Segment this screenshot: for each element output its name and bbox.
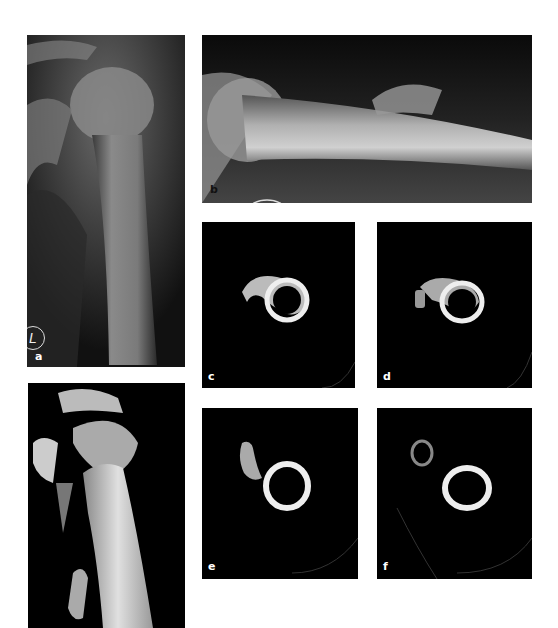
panel-a-radiograph: L a — [27, 35, 185, 367]
ct-slice-image — [377, 408, 532, 579]
ct-3d-image — [28, 383, 185, 628]
panel-label-b: b — [210, 183, 218, 196]
panel-b-radiograph: b — [202, 35, 532, 203]
panel-d-ct: d — [377, 222, 532, 388]
panel-label-e: e — [208, 560, 215, 573]
panel-3d-reconstruction — [28, 383, 185, 628]
panel-label-a: a — [35, 350, 42, 363]
panel-e-ct: e — [202, 408, 358, 579]
panel-label-f: f — [383, 560, 388, 573]
ct-slice-image — [377, 222, 532, 388]
xray-ap-image — [27, 35, 185, 367]
panel-label-d: d — [383, 370, 391, 383]
panel-c-ct: c — [202, 222, 355, 388]
panel-label-c: c — [208, 370, 215, 383]
ct-slice-image — [202, 222, 355, 388]
panel-f-ct: f — [377, 408, 532, 579]
ct-slice-image — [202, 408, 358, 579]
xray-lateral-image — [202, 35, 532, 203]
